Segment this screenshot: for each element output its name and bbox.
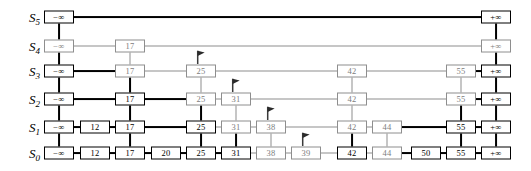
row-label-letter: S	[29, 64, 36, 79]
node-value: 31	[232, 123, 241, 132]
node-s0-neg_inf[interactable]: −∞	[44, 147, 74, 160]
node-value: 55	[457, 149, 466, 158]
node-s0-k39[interactable]: 39	[291, 147, 321, 160]
node-s1-pos_inf[interactable]: +∞	[481, 121, 511, 134]
node-s0-k25[interactable]: 25	[186, 147, 216, 160]
node-s0-k31[interactable]: 31	[221, 147, 251, 160]
node-s2-pos_inf[interactable]: +∞	[481, 93, 511, 106]
node-s3-k55[interactable]: 55	[446, 65, 476, 78]
node-value: −∞	[53, 42, 64, 51]
node-s1-k25[interactable]: 25	[186, 121, 216, 134]
node-value: 12	[91, 149, 100, 158]
row-label-s1: S1	[29, 121, 40, 134]
node-s0-pos_inf[interactable]: +∞	[481, 147, 511, 160]
skip-list-diagram: −∞+∞−∞17+∞−∞17254255+∞−∞1725314255+∞−∞12…	[0, 0, 531, 171]
node-value: −∞	[53, 123, 64, 132]
hlink-s2-k31-to-k42	[236, 99, 352, 100]
node-value: 50	[422, 149, 431, 158]
node-s1-k42[interactable]: 42	[337, 121, 367, 134]
node-s1-k38[interactable]: 38	[256, 121, 286, 134]
node-value: 25	[197, 123, 206, 132]
node-s4-neg_inf[interactable]: −∞	[44, 40, 74, 53]
node-value: 17	[126, 123, 135, 132]
node-s0-k17[interactable]: 17	[115, 147, 145, 160]
node-s2-k17[interactable]: 17	[115, 93, 145, 106]
node-s3-k17[interactable]: 17	[115, 65, 145, 78]
node-s1-k31[interactable]: 31	[221, 121, 251, 134]
row-label-subscript: 4	[36, 46, 41, 56]
node-value: 31	[232, 149, 241, 158]
row-label-subscript: 1	[36, 127, 41, 137]
node-value: −∞	[53, 67, 64, 76]
node-s2-k31[interactable]: 31	[221, 93, 251, 106]
node-s3-k25[interactable]: 25	[186, 65, 216, 78]
row-label-s0: S0	[29, 147, 40, 160]
node-s0-k44[interactable]: 44	[372, 147, 402, 160]
row-label-letter: S	[29, 92, 36, 107]
node-value: 55	[457, 95, 466, 104]
node-s1-neg_inf[interactable]: −∞	[44, 121, 74, 134]
node-value: 17	[126, 95, 135, 104]
flag-marker-s0-39-icon	[301, 132, 312, 146]
node-s2-k55[interactable]: 55	[446, 93, 476, 106]
node-s0-k55[interactable]: 55	[446, 147, 476, 160]
node-value: 31	[232, 95, 241, 104]
node-value: 55	[457, 123, 466, 132]
hlink-s2-k42-to-k55	[352, 99, 461, 100]
node-s4-k17[interactable]: 17	[115, 40, 145, 53]
node-value: 55	[457, 67, 466, 76]
row-label-s5: S5	[29, 11, 40, 24]
node-s0-k42[interactable]: 42	[337, 147, 367, 160]
hlink-s3-k42-to-k55	[352, 71, 461, 72]
row-label-letter: S	[29, 146, 36, 161]
node-value: 17	[126, 67, 135, 76]
node-value: 42	[348, 149, 357, 158]
node-s3-pos_inf[interactable]: +∞	[481, 65, 511, 78]
row-label-letter: S	[29, 10, 36, 25]
node-value: 17	[126, 149, 135, 158]
node-value: 44	[383, 149, 392, 158]
node-value: −∞	[53, 149, 64, 158]
node-s3-neg_inf[interactable]: −∞	[44, 65, 74, 78]
node-s0-k50[interactable]: 50	[411, 147, 441, 160]
node-s1-k17[interactable]: 17	[115, 121, 145, 134]
node-s0-k20[interactable]: 20	[151, 147, 181, 160]
node-s0-k38[interactable]: 38	[256, 147, 286, 160]
node-s3-k42[interactable]: 42	[337, 65, 367, 78]
hlink-s5-neg_inf-to-pos_inf	[59, 16, 496, 18]
node-value: 42	[348, 67, 357, 76]
node-s1-k55[interactable]: 55	[446, 121, 476, 134]
node-s5-neg_inf[interactable]: −∞	[44, 11, 74, 24]
node-s5-pos_inf[interactable]: +∞	[481, 11, 511, 24]
node-value: +∞	[490, 42, 501, 51]
diagram-frame	[0, 0, 531, 171]
node-value: 12	[91, 123, 100, 132]
node-value: 25	[197, 149, 206, 158]
row-label-letter: S	[29, 39, 36, 54]
row-label-subscript: 2	[36, 99, 41, 109]
node-value: 25	[197, 67, 206, 76]
node-s2-k42[interactable]: 42	[337, 93, 367, 106]
node-value: 42	[348, 123, 357, 132]
node-s2-neg_inf[interactable]: −∞	[44, 93, 74, 106]
row-label-s4: S4	[29, 40, 40, 53]
node-value: +∞	[490, 13, 501, 22]
row-label-s2: S2	[29, 93, 40, 106]
node-value: 17	[126, 42, 135, 51]
node-s0-k12[interactable]: 12	[80, 147, 110, 160]
node-value: −∞	[53, 95, 64, 104]
node-s1-k44[interactable]: 44	[372, 121, 402, 134]
node-value: +∞	[490, 67, 501, 76]
node-value: +∞	[490, 123, 501, 132]
hlink-s3-k25-to-k42	[201, 71, 352, 72]
node-s2-k25[interactable]: 25	[186, 93, 216, 106]
node-value: +∞	[490, 149, 501, 158]
row-label-letter: S	[29, 120, 36, 135]
node-s4-pos_inf[interactable]: +∞	[481, 40, 511, 53]
row-label-s3: S3	[29, 65, 40, 78]
node-s1-k12[interactable]: 12	[80, 121, 110, 134]
flag-marker-s3-25-icon	[196, 50, 207, 64]
row-label-subscript: 5	[36, 17, 41, 27]
row-label-subscript: 3	[36, 71, 41, 81]
node-value: −∞	[53, 13, 64, 22]
